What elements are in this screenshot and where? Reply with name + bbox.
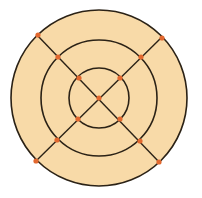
point-inner-se [117,116,122,121]
point-outer-ne [159,35,164,40]
point-outer-se [156,159,161,164]
point-middle-sw [54,137,59,142]
point-middle-ne [138,54,143,59]
point-center [96,95,101,100]
point-inner-ne [117,75,122,80]
point-middle-se [137,138,142,143]
concentric-circles-diagram [0,0,202,198]
point-outer-nw [35,32,40,37]
point-outer-sw [33,158,38,163]
point-inner-sw [75,116,80,121]
point-middle-nw [55,54,60,59]
point-inner-nw [76,75,81,80]
